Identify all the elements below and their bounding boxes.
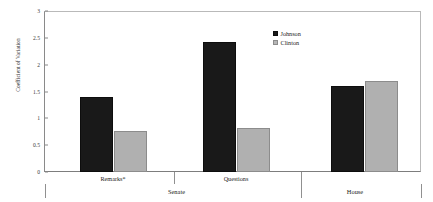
y-tick-mark: [45, 11, 48, 12]
bar-chart: Coefficient of Variation 00.511.522.53 J…: [0, 0, 433, 202]
legend-item-johnson: Johnson: [273, 29, 301, 38]
x-tier2-separator-1: [301, 184, 302, 198]
x-tier1-separator-0: [174, 172, 175, 184]
gray-square-swatch: [273, 40, 278, 45]
x-tier2-separator-2: [421, 184, 422, 198]
y-axis-label: Coefficient of Variation: [15, 0, 21, 135]
legend-label-clinton: Clinton: [281, 38, 300, 47]
bar-clinton-2: [365, 81, 398, 172]
x-group-label-0: Remarks*: [53, 175, 173, 182]
y-tick-label: 0: [37, 169, 45, 175]
y-tick-label: 2.5: [33, 35, 45, 41]
bar-clinton-1: [237, 128, 270, 172]
y-tick-label: 3: [37, 8, 45, 14]
bar-johnson-1: [203, 42, 236, 172]
x-group-label-1: Questions: [176, 175, 296, 182]
y-tick-label: 1.5: [33, 89, 45, 95]
y-tick-label: 2: [37, 62, 45, 68]
x-category-label-1: House: [295, 188, 415, 195]
plot-area: 00.511.522.53: [45, 11, 421, 172]
y-tick-mark: [45, 64, 48, 65]
legend-item-clinton: Clinton: [273, 38, 301, 47]
y-tick-label: 1: [37, 115, 45, 121]
x-tier2-separator-0: [45, 184, 46, 198]
bar-johnson-2: [331, 86, 364, 172]
x-tier1-separator-1: [301, 172, 302, 184]
y-tick-label: 0.5: [33, 142, 45, 148]
y-tick-mark: [45, 37, 48, 38]
chart-legend: Johnson Clinton: [273, 29, 301, 47]
y-tick-mark: [45, 145, 48, 146]
y-tick-mark: [45, 172, 48, 173]
black-square-swatch: [273, 31, 278, 36]
legend-label-johnson: Johnson: [281, 29, 301, 38]
x-category-label-0: Senate: [117, 188, 237, 195]
y-tick-mark: [45, 118, 48, 119]
bar-johnson-0: [80, 97, 113, 172]
y-tick-mark: [45, 91, 48, 92]
bar-clinton-0: [114, 131, 147, 172]
